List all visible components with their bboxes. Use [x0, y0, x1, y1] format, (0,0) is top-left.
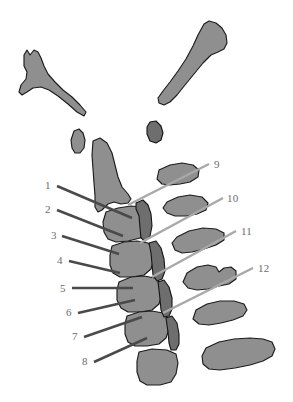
label-12: 12	[258, 263, 269, 274]
transverse-process-right-4	[183, 265, 236, 290]
transverse-process-right-2	[163, 195, 208, 216]
upper-right-bone-fragment	[158, 21, 227, 105]
label-7: 7	[72, 331, 78, 342]
label-4: 4	[57, 255, 63, 266]
label-3: 3	[51, 230, 57, 241]
label-5: 5	[60, 283, 66, 294]
label-1: 1	[45, 180, 51, 191]
label-9: 9	[214, 159, 220, 170]
small-oval-fragment-center	[147, 121, 163, 143]
small-oval-fragment-left	[71, 129, 85, 153]
label-11: 11	[241, 226, 252, 237]
transverse-process-right-5	[193, 301, 247, 325]
label-8: 8	[82, 356, 88, 367]
upper-left-bone-fragment	[19, 50, 86, 116]
label-2: 2	[45, 204, 51, 215]
label-6: 6	[66, 307, 72, 318]
vertebral-body-3	[117, 276, 162, 312]
transverse-process-right-1	[157, 163, 199, 185]
vertebral-body-5	[137, 349, 178, 385]
spinous-process-upper	[92, 138, 131, 212]
anatomy-illustration-canvas	[0, 0, 293, 402]
posterior-element-4	[166, 316, 179, 350]
anatomical-figure: 1 2 3 4 5 6 7 8 9 10 11 12	[0, 0, 293, 402]
vertebral-body-4	[125, 311, 169, 346]
transverse-process-right-6	[202, 338, 275, 370]
label-10: 10	[227, 193, 238, 204]
